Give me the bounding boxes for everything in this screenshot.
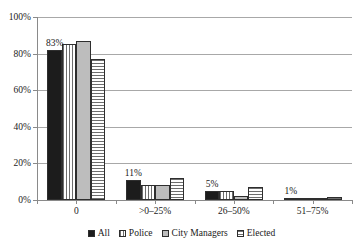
bar-data-label: 1% bbox=[285, 186, 298, 196]
bar bbox=[47, 50, 62, 200]
bar bbox=[234, 196, 249, 200]
legend-swatch-icon bbox=[119, 230, 126, 237]
bar bbox=[91, 59, 106, 200]
bar bbox=[62, 44, 77, 200]
bar bbox=[170, 178, 185, 200]
bars-layer bbox=[37, 17, 352, 200]
x-axis-tick bbox=[234, 200, 235, 204]
y-axis-tick-label: 20% bbox=[14, 158, 31, 168]
x-axis-boundary-tick bbox=[352, 200, 353, 204]
bar-data-label: 11% bbox=[125, 168, 142, 178]
legend-label: City Managers bbox=[172, 228, 228, 238]
y-axis-tick-label: 100% bbox=[9, 12, 31, 22]
x-axis-boundary-tick bbox=[37, 200, 38, 204]
y-axis-tick-label: 60% bbox=[14, 85, 31, 95]
bar-data-label: 5% bbox=[206, 179, 219, 189]
legend-item[interactable]: City Managers bbox=[162, 228, 228, 238]
x-axis-boundary-tick bbox=[195, 200, 196, 204]
x-axis-boundary-tick bbox=[116, 200, 117, 204]
legend-swatch-icon bbox=[162, 230, 169, 237]
bar-chart: 0%20%40%60%80%100% 0>0–25%26–50%51–75% A… bbox=[0, 0, 363, 250]
bar bbox=[248, 187, 263, 200]
y-axis-tick-label: 0% bbox=[18, 195, 31, 205]
legend-item[interactable]: All bbox=[88, 228, 110, 238]
bar bbox=[298, 198, 313, 200]
legend-label: Police bbox=[129, 228, 153, 238]
chart-legend: AllPoliceCity ManagersElected bbox=[0, 228, 363, 238]
x-axis-tick-label: 26–50% bbox=[218, 206, 250, 216]
x-axis-tick-label: >0–25% bbox=[139, 206, 171, 216]
bar bbox=[284, 198, 299, 200]
x-axis-tick bbox=[313, 200, 314, 204]
bar bbox=[313, 198, 328, 200]
bar bbox=[205, 191, 220, 200]
x-axis-tick-label: 0 bbox=[74, 206, 79, 216]
x-axis-tick bbox=[76, 200, 77, 204]
y-axis-tick-label: 40% bbox=[14, 122, 31, 132]
x-axis-tick-label: 51–75% bbox=[297, 206, 329, 216]
legend-swatch-icon bbox=[88, 230, 95, 237]
legend-item[interactable]: Police bbox=[119, 228, 153, 238]
legend-label: Elected bbox=[247, 228, 275, 238]
bar bbox=[76, 41, 91, 200]
bar bbox=[141, 185, 156, 200]
bar-data-label: 83% bbox=[46, 38, 63, 48]
x-axis-boundary-tick bbox=[273, 200, 274, 204]
legend-swatch-icon bbox=[237, 230, 244, 237]
bar bbox=[155, 185, 170, 200]
bar bbox=[327, 197, 342, 200]
x-axis-tick bbox=[155, 200, 156, 204]
bar bbox=[219, 191, 234, 200]
bar bbox=[126, 180, 141, 200]
y-axis-tick-label: 80% bbox=[14, 49, 31, 59]
legend-item[interactable]: Elected bbox=[237, 228, 275, 238]
legend-label: All bbox=[98, 228, 110, 238]
